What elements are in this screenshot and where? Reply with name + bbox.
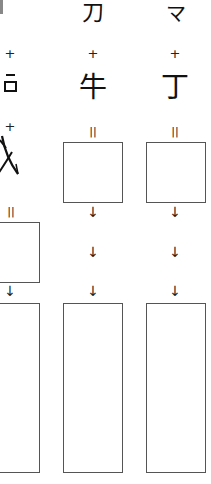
down-arrow: ↓ [86, 245, 100, 259]
plus-sign: + [168, 47, 182, 60]
ge-glyph-icon [0, 134, 22, 178]
component-glyph: マ [162, 4, 190, 24]
answer-box[interactable] [63, 142, 123, 203]
component-glyph: 牛 [78, 74, 108, 102]
plus-sign: + [86, 47, 100, 60]
equals-sign: || [168, 126, 182, 137]
plus-sign: + [3, 120, 17, 133]
plus-sign: + [3, 47, 17, 60]
equals-glyph: || [7, 205, 14, 218]
radical-glyph-icon [0, 71, 20, 95]
answer-box[interactable] [0, 222, 40, 283]
result-box[interactable] [146, 303, 206, 473]
answer-box[interactable] [146, 142, 206, 203]
component-glyph [0, 71, 20, 99]
component-glyph: 丁 [159, 74, 191, 102]
equals-sign: || [4, 206, 18, 217]
component-glyph [0, 134, 22, 178]
down-arrow: ↓ [86, 205, 100, 219]
down-arrow: ↓ [168, 245, 182, 259]
equals-glyph: || [89, 125, 96, 138]
equals-glyph: || [171, 125, 178, 138]
down-arrow: ↓ [168, 284, 182, 298]
result-box[interactable] [0, 303, 40, 473]
down-arrow: ↓ [3, 284, 17, 298]
left-edge-mark [0, 0, 3, 14]
result-box[interactable] [63, 303, 123, 473]
equals-sign: || [86, 126, 100, 137]
down-arrow: ↓ [86, 284, 100, 298]
down-arrow: ↓ [168, 205, 182, 219]
component-glyph: 刀 [79, 2, 107, 24]
